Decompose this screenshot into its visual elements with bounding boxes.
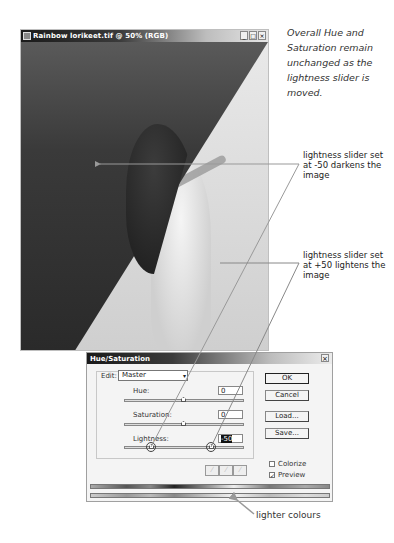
document-icon [23,32,31,40]
preview-checkbox-box[interactable]: ✓ [269,472,275,478]
image-document-window: Rainbow lorikeet.tif @ 50% (RGB) _ □ × [20,29,269,351]
dialog-titlebar[interactable]: Hue/Saturation × [87,353,332,364]
image-window-titlebar[interactable]: Rainbow lorikeet.tif @ 50% (RGB) _ □ × [21,30,268,42]
image-canvas[interactable] [21,42,268,350]
colorize-checkbox-box[interactable] [269,461,275,467]
caption-text: Overall Hue and Saturation remain unchan… [287,25,392,100]
hue-saturation-dialog: Hue/Saturation × Edit: Master ▾ Hue: 0 S… [86,352,333,502]
chevron-down-icon: ▾ [183,371,186,380]
lightness-input[interactable]: -50 [218,434,243,443]
window-controls: _ □ × [240,31,266,40]
edit-label: Edit: [99,372,119,380]
edit-dropdown[interactable]: Master ▾ [118,370,188,381]
dialog-close-button[interactable]: × [321,354,329,362]
highlight-ring-minus50 [146,442,156,452]
close-button[interactable]: × [258,31,266,40]
image-window-title: Rainbow lorikeet.tif @ 50% (RGB) [33,32,168,40]
note-darken: lightness slider set at -50 darkens the … [303,150,393,180]
original-spectrum-bar [90,484,330,489]
ok-button[interactable]: OK [265,373,309,384]
hue-label: Hue: [133,387,149,395]
colorize-label: Colorize [278,460,306,468]
note-lighten: lightness slider set at +50 lightens the… [303,250,393,280]
saturation-label: Saturation: [133,411,172,419]
note-lighter-colours: lighter colours [256,510,321,520]
dialog-title: Hue/Saturation [90,355,150,363]
edit-dropdown-value: Master [122,371,146,379]
saturation-input[interactable]: 0 [218,410,243,419]
preview-checkbox[interactable]: ✓ Preview [269,471,305,479]
eyedropper-minus-icon[interactable]: ⁄ [233,465,247,476]
colorize-checkbox[interactable]: Colorize [269,460,306,468]
eyedropper-plus-icon[interactable]: ⁄ [219,465,233,476]
maximize-button[interactable]: □ [249,31,257,40]
minimize-button[interactable]: _ [240,31,248,40]
preview-label: Preview [278,471,305,479]
cancel-button[interactable]: Cancel [265,390,309,401]
highlight-ring-plus50 [206,442,216,452]
adjusted-spectrum-bar [90,493,330,498]
lightness-slider[interactable] [124,446,244,449]
load-button[interactable]: Load... [265,411,309,422]
save-button[interactable]: Save... [265,428,309,439]
eyedropper-tools: ⁄ ⁄ ⁄ [205,465,247,476]
hue-input[interactable]: 0 [218,386,243,395]
eyedropper-icon[interactable]: ⁄ [205,465,219,476]
